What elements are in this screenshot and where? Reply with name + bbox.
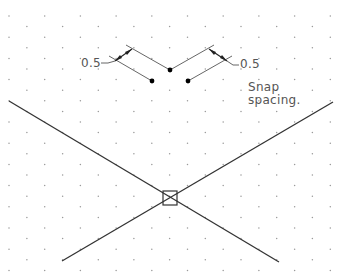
grid-dot (151, 270, 153, 272)
grid-dot (187, 36, 189, 38)
grid-dot (8, 270, 10, 272)
grid-dot (294, 270, 296, 272)
grid-dot (133, 89, 135, 91)
grid-dot (44, 270, 46, 272)
grid-dot (44, 15, 46, 17)
grid-dot (187, 185, 189, 187)
grid-dot (62, 153, 64, 155)
grid-dot (187, 15, 189, 17)
grid-dot (133, 47, 135, 49)
grid-dot (62, 89, 64, 91)
grid-dot (312, 132, 314, 134)
grid-dot (80, 206, 82, 208)
grid-dot (62, 195, 64, 197)
grid-dot (258, 227, 260, 229)
grid-dot (169, 259, 171, 261)
grid-dot (222, 270, 224, 272)
grid-dot (240, 26, 242, 28)
grid-dot (294, 206, 296, 208)
grid-dot (80, 164, 82, 166)
grid-dot (276, 111, 278, 113)
right-arrow-icon (209, 49, 216, 55)
grid-dot (222, 79, 224, 81)
grid-dot (62, 111, 64, 113)
grid-dot (330, 164, 332, 166)
grid-dot (44, 227, 46, 229)
grid-dot (187, 58, 189, 60)
snap-points (150, 68, 191, 84)
grid-dot (312, 195, 314, 197)
grid-dot (187, 100, 189, 102)
isometric-dot-grid (8, 15, 331, 271)
grid-dot (205, 47, 207, 49)
grid-dot (44, 185, 46, 187)
grid-dot (276, 68, 278, 70)
grid-dot (169, 89, 171, 91)
grid-dot (258, 142, 260, 144)
snap-grid-diagram (0, 0, 342, 275)
grid-dot (258, 15, 260, 17)
grid-dot (312, 68, 314, 70)
grid-dot (80, 36, 82, 38)
grid-dot (8, 248, 10, 250)
grid-dot (44, 79, 46, 81)
grid-dot (222, 206, 224, 208)
grid-dot (222, 121, 224, 123)
right-dimension-label: 0.5 (240, 58, 260, 70)
grid-dot (169, 26, 171, 28)
left-dimension (101, 45, 170, 81)
grid-dot (312, 153, 314, 155)
grid-dot (133, 153, 135, 155)
grid-dot (8, 58, 10, 60)
grid-dot (276, 174, 278, 176)
grid-dot (8, 185, 10, 187)
grid-dot (222, 100, 224, 102)
grid-dot (276, 47, 278, 49)
snap-point-left (150, 79, 155, 84)
grid-dot (115, 79, 117, 81)
grid-dot (205, 132, 207, 134)
grid-dot (26, 174, 28, 176)
grid-dot (133, 68, 135, 70)
grid-dot (240, 47, 242, 49)
grid-dot (240, 153, 242, 155)
grid-dot (222, 142, 224, 144)
grid-dot (330, 270, 332, 272)
grid-dot (258, 164, 260, 166)
grid-dot (62, 47, 64, 49)
grid-dot (240, 111, 242, 113)
grid-dot (62, 68, 64, 70)
grid-dot (294, 36, 296, 38)
grid-dot (330, 185, 332, 187)
grid-dot (44, 36, 46, 38)
grid-dot (330, 100, 332, 102)
left-extension-line-1 (126, 45, 170, 70)
grid-dot (151, 227, 153, 229)
right-extension-line-1 (170, 45, 214, 70)
grid-dot (98, 195, 100, 197)
grid-dot (330, 248, 332, 250)
grid-dot (187, 270, 189, 272)
grid-dot (44, 164, 46, 166)
grid-dot (8, 36, 10, 38)
grid-dot (294, 142, 296, 144)
grid-dot (8, 121, 10, 123)
grid-dot (294, 185, 296, 187)
grid-dot (115, 142, 117, 144)
grid-dot (151, 248, 153, 250)
grid-dot (26, 68, 28, 70)
grid-dot (294, 164, 296, 166)
grid-dot (115, 270, 117, 272)
grid-dot (222, 248, 224, 250)
grid-dot (276, 217, 278, 219)
grid-dot (187, 248, 189, 250)
grid-dot (276, 238, 278, 240)
grid-dot (240, 174, 242, 176)
snap-label-line1: Snap (248, 81, 279, 93)
grid-dot (8, 15, 10, 17)
grid-dot (80, 227, 82, 229)
grid-dot (98, 89, 100, 91)
grid-dot (133, 238, 135, 240)
grid-dot (276, 153, 278, 155)
grid-dot (187, 121, 189, 123)
